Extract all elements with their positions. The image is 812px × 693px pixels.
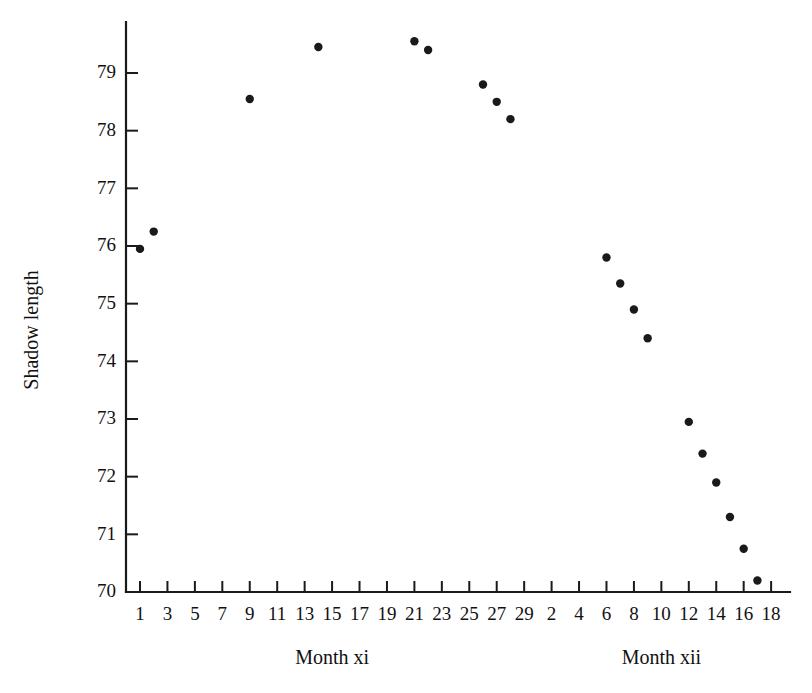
x-axis-tick-label: 14 (707, 603, 727, 624)
data-point (479, 80, 487, 88)
data-point (314, 43, 322, 51)
y-axis-tick-label: 71 (97, 523, 116, 544)
data-point (685, 418, 693, 426)
x-axis-tick-label: 9 (245, 603, 255, 624)
data-point (410, 37, 418, 45)
x-axis-tick-label: 1 (135, 603, 145, 624)
data-point (698, 449, 706, 457)
data-point (616, 279, 624, 287)
x-axis-tick-label: 12 (679, 603, 698, 624)
x-axis-tick-label: 5 (190, 603, 200, 624)
x-axis-tick-label: 4 (574, 603, 584, 624)
x-axis-panel-label-month-xii: Month xii (622, 646, 702, 668)
data-point (643, 334, 651, 342)
y-axis-tick-label: 74 (97, 350, 117, 371)
x-axis-tick-label: 18 (762, 603, 781, 624)
x-axis-tick-label: 21 (405, 603, 424, 624)
y-axis-title: Shadow length (20, 270, 43, 389)
x-axis-tick-label: 19 (377, 603, 396, 624)
shadow-length-scatter-chart: 70717273747576777879 1357911131517192123… (0, 0, 812, 693)
data-point (602, 253, 610, 261)
data-point (150, 227, 158, 235)
data-point (493, 98, 501, 106)
x-axis-tick-label: 10 (652, 603, 671, 624)
data-point (753, 576, 761, 584)
x-axis-tick-label: 29 (515, 603, 534, 624)
x-axis-tick-label: 23 (432, 603, 451, 624)
data-point (712, 478, 720, 486)
y-axis-tick-label: 79 (97, 61, 116, 82)
data-point (630, 305, 638, 313)
y-axis-tick-label: 78 (97, 119, 116, 140)
data-point (726, 513, 734, 521)
data-point (136, 245, 144, 253)
data-point (424, 46, 432, 54)
x-axis-tick-label: 7 (218, 603, 228, 624)
y-axis-tick-label: 75 (97, 292, 116, 313)
y-axis-tick-label: 77 (97, 177, 116, 198)
chart-canvas: 70717273747576777879 1357911131517192123… (0, 0, 812, 693)
chart-background (0, 0, 812, 693)
data-point (739, 545, 747, 553)
y-axis-tick-label: 73 (97, 407, 116, 428)
x-axis-tick-label: 11 (268, 603, 286, 624)
x-axis-tick-label: 17 (350, 603, 369, 624)
x-axis-tick-label: 27 (487, 603, 506, 624)
x-axis-tick-label: 25 (460, 603, 479, 624)
data-point (246, 95, 254, 103)
y-axis-tick-label: 76 (97, 234, 116, 255)
x-axis-tick-label: 6 (602, 603, 612, 624)
x-axis-tick-label: 15 (323, 603, 342, 624)
x-axis-panel-label-month-xi: Month xi (295, 646, 369, 668)
x-axis-tick-label: 2 (547, 603, 557, 624)
x-axis-tick-label: 13 (295, 603, 314, 624)
y-axis-tick-label: 70 (97, 580, 116, 601)
x-axis-tick-label: 8 (629, 603, 639, 624)
y-axis-tick-label: 72 (97, 465, 116, 486)
data-point (506, 115, 514, 123)
x-axis-tick-label: 3 (163, 603, 173, 624)
x-axis-tick-label: 16 (734, 603, 753, 624)
